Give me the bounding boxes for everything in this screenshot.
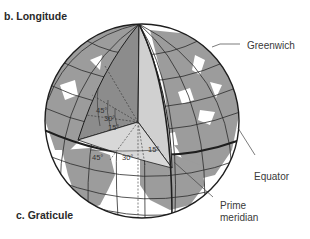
longitude-angle-15: 15° bbox=[148, 145, 159, 154]
longitude-angle-30: 30° bbox=[122, 153, 133, 162]
prime-meridian-label-line2: meridian bbox=[220, 212, 258, 224]
latitude-angle-15: 15° bbox=[108, 123, 119, 132]
equator-label: Equator bbox=[254, 171, 289, 183]
longitude-angle-45: 45° bbox=[92, 153, 103, 162]
latitude-angle-30: 30° bbox=[104, 114, 115, 123]
graticule-panel-title: c. Graticule bbox=[16, 209, 73, 221]
globe-diagram: 45° 30° 15° 45° 30° 15° bbox=[0, 0, 310, 239]
prime-meridian-label-line1: Prime bbox=[220, 200, 246, 212]
greenwich-label: Greenwich bbox=[247, 40, 295, 52]
longitude-panel-title: b. Longitude bbox=[4, 10, 67, 22]
